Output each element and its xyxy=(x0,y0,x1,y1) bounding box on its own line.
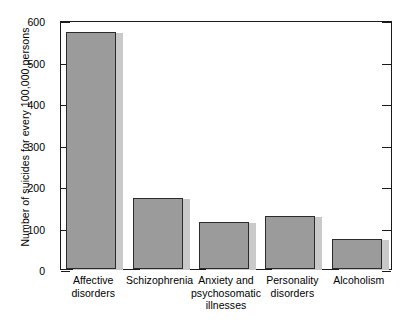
y-axis-tick-label: 0 xyxy=(11,266,45,276)
x-axis-category-line: illnesses xyxy=(189,299,263,312)
bar-body xyxy=(199,222,249,269)
x-axis-category-line: disorders xyxy=(255,287,329,300)
y-axis-tick-right xyxy=(382,64,391,65)
bar xyxy=(133,191,190,269)
x-axis-category-label: Affectivedisorders xyxy=(56,274,130,299)
y-axis-tick-right xyxy=(382,230,391,231)
x-axis-category-label: Schizophrenia xyxy=(122,274,196,287)
x-axis-category-label: Personalitydisorders xyxy=(255,274,329,299)
plot-area: 0100200300400500600 xyxy=(60,21,392,270)
y-axis-tick-right xyxy=(382,188,391,189)
y-axis-tick-label: 300 xyxy=(11,142,45,152)
x-axis-category-line: disorders xyxy=(56,287,130,300)
bar-body xyxy=(332,239,382,269)
y-axis-tick-label: 200 xyxy=(11,183,45,193)
x-axis-category-line: Affective xyxy=(56,274,130,287)
y-axis-tick-left xyxy=(61,22,70,23)
y-axis-tick-left xyxy=(61,271,70,272)
x-axis-category-line: psychosomatic xyxy=(189,287,263,300)
y-axis-tick-right xyxy=(382,147,391,148)
bar xyxy=(199,215,256,269)
bar-body xyxy=(133,198,183,269)
y-axis-tick-label: 500 xyxy=(11,59,45,69)
y-axis-tick-right xyxy=(382,271,391,272)
bar xyxy=(66,25,123,269)
x-axis-category-line: Schizophrenia xyxy=(122,274,196,287)
x-axis-category-label: Alcoholism xyxy=(322,274,396,287)
y-axis-tick-right xyxy=(382,22,391,23)
bar xyxy=(265,209,322,269)
x-axis-category-label: Anxiety andpsychosomaticillnesses xyxy=(189,274,263,312)
x-axis-labels: AffectivedisordersSchizophreniaAnxiety a… xyxy=(60,274,392,328)
y-axis-tick-label: 100 xyxy=(11,225,45,235)
x-axis-category-line: Personality xyxy=(255,274,329,287)
y-axis-tick-label: 400 xyxy=(11,100,45,110)
bar-body xyxy=(265,216,315,269)
x-axis-category-line: Anxiety and xyxy=(189,274,263,287)
bar-body xyxy=(66,32,116,269)
x-axis-category-line: Alcoholism xyxy=(322,274,396,287)
bar xyxy=(332,232,389,269)
y-axis-tick-right xyxy=(382,105,391,106)
bar-chart-figure: Number of suicides for every 100,000 per… xyxy=(0,0,416,328)
y-axis-tick-label: 600 xyxy=(11,17,45,27)
